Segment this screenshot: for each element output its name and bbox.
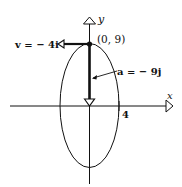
x-tick-label: 4	[122, 109, 129, 120]
leader-arrow-icon	[92, 75, 97, 80]
y-axis-label: y	[97, 13, 105, 26]
acceleration-label: a = − 9j	[117, 66, 161, 77]
orbit-diagram: y x 4 (0, 9) v = − 4i a = − 9j	[0, 0, 182, 187]
point-marker	[87, 41, 92, 46]
x-axis-arrow-icon	[166, 100, 173, 112]
point-label: (0, 9)	[97, 33, 125, 45]
velocity-arrowhead-icon	[58, 40, 64, 48]
x-axis-label: x	[167, 90, 173, 101]
acceleration-arrowhead-icon	[85, 99, 95, 106]
y-axis-arrow-icon	[84, 17, 96, 24]
velocity-label: v = − 4i	[14, 39, 59, 50]
